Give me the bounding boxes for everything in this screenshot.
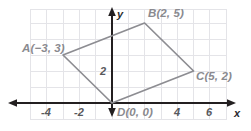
x-tick-label-minus4: -4: [41, 106, 51, 118]
vertex-label-c: C(5, 2): [196, 70, 232, 82]
y-axis-arrow-up: [108, 7, 116, 16]
coordinate-plane-svg: A(−3, 3) B(2, 5) C(5, 2) D(0, 0) -4 -2 4…: [0, 0, 251, 131]
vertex-label-a: A(−3, 3): [21, 42, 65, 54]
x-tick-label-4: 4: [173, 106, 180, 118]
y-axis-label: y: [116, 8, 124, 20]
vertex-label-d: D(0, 0): [117, 106, 153, 118]
y-axis-arrow-down: [108, 108, 116, 117]
x-tick-label-minus2: -2: [74, 106, 84, 118]
x-axis-label: x: [233, 107, 241, 119]
vertex-label-b: B(2, 5): [148, 7, 184, 19]
x-axis-arrow-left: [8, 99, 17, 107]
x-axis-arrow-right: [227, 99, 236, 107]
x-tick-label-6: 6: [206, 106, 213, 118]
y-tick-label-2: 2: [99, 65, 106, 77]
coordinate-plane-figure: A(−3, 3) B(2, 5) C(5, 2) D(0, 0) -4 -2 4…: [0, 0, 251, 131]
